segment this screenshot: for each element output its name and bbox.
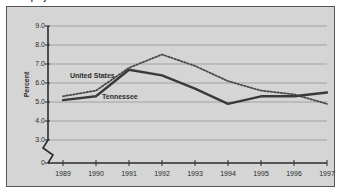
figure-frame: Percent 9.0 8.0 7.0 6.0 5.0 4.0 3.0 0 19…: [6, 6, 335, 187]
chart-screenshot: Unemployment Rate Percent 9.0 8.0 7.0 6.…: [0, 0, 342, 194]
y-axis-break-zigzag: [43, 140, 53, 163]
gridlines: [48, 26, 327, 140]
plot-area: [7, 7, 334, 186]
page-title: Unemployment Rate: [8, 0, 87, 2]
y-axis: [43, 26, 53, 163]
